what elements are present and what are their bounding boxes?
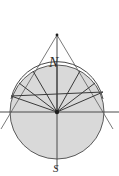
- label-north-pole: N: [49, 56, 58, 70]
- figure-container: N S: [0, 0, 119, 176]
- geometry-diagram: [0, 0, 119, 176]
- label-south-pole: S: [53, 163, 59, 174]
- apex-point: [56, 34, 59, 37]
- center-point: [55, 110, 59, 114]
